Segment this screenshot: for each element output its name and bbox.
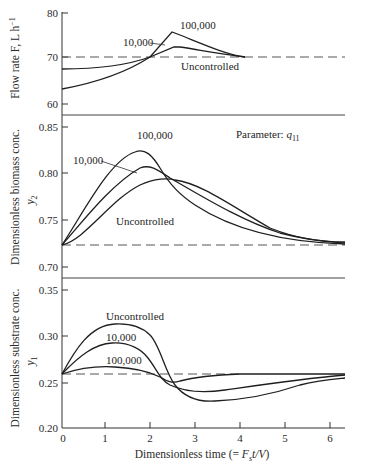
y-tick-label: 0.20 [39,422,59,434]
x-axis: 0 1 2 3 4 5 6 Dimensionless time (= Fst/… [60,422,345,463]
y-axis-title-flow: Flow rate F, L h−1 [8,17,22,99]
y-tick-label: 0.70 [39,261,59,273]
y-tick-label: 0.75 [39,214,59,226]
y-tick-label: 0.35 [39,284,59,296]
label-flow-uncontrolled: Uncontrolled [181,60,240,72]
y-axis-title-substrate: Dimensionless substrate conc. [9,288,21,427]
x-tick-label: 2 [147,432,153,444]
x-tick-label: 5 [282,432,288,444]
panel-substrate: 0.35 0.30 0.25 0.20 Dimensionless substr… [9,284,345,434]
panel-biomass: 0.85 0.80 0.75 0.70 Dimensionless biomas… [9,121,345,273]
y-tick-label: 0.25 [39,377,59,389]
x-tick-label: 4 [237,432,243,444]
y-tick-label: 0.80 [39,167,59,179]
x-tick-label: 3 [192,432,198,444]
label-biomass-100000: 100,000 [137,129,173,141]
label-flow-100000: 100,000 [180,19,216,31]
y-axis-title-biomass: Dimensionless biomass conc. [9,129,21,265]
label-substrate-10000: 10,000 [106,331,137,343]
panel-flow-rate: 80 70 60 Flow rate F, L h−1 10,000 100,0… [8,7,345,110]
x-tick-label: 6 [327,432,333,444]
label-biomass-10000: 10,000 [73,154,104,166]
label-substrate-100000: 100,000 [106,354,142,366]
y-axis-symbol-y1: y1 [24,356,39,366]
label-flow-10000: 10,000 [123,36,154,48]
y-axis-symbol-y2: y2 [24,195,39,205]
y-tick-label: 80 [47,7,59,19]
label-biomass-uncontrolled: Uncontrolled [116,215,175,227]
chart-figure: 80 70 60 Flow rate F, L h−1 10,000 100,0… [0,0,365,464]
parameter-label: Parameter: q11 [236,128,300,143]
y-tick-label: 0.85 [39,121,59,133]
x-tick-label: 1 [102,432,108,444]
y-tick-label: 0.30 [39,330,59,342]
y-tick-label: 60 [47,98,59,110]
x-tick-label: 0 [60,432,66,444]
label-substrate-uncontrolled: Uncontrolled [106,310,165,322]
x-axis-title: Dimensionless time (= Fst/V) [135,448,270,463]
curve-biomass-uncontrolled [62,179,345,245]
y-tick-label: 70 [47,51,59,63]
curve-substrate-uncontrolled [62,324,345,401]
